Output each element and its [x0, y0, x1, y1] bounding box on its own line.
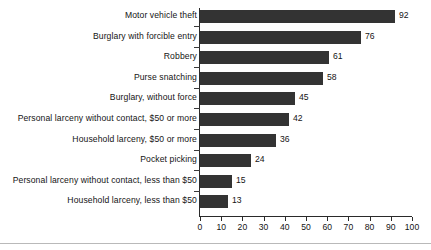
bar-value-label: 13 [232, 194, 242, 207]
value-axis-tick-label: 50 [301, 222, 311, 233]
value-axis-tick [327, 217, 328, 221]
bar-value-label: 36 [280, 133, 290, 146]
chart-row: Burglary, without force 45 [0, 92, 431, 105]
bar [200, 72, 323, 85]
chart-row: Pocket picking 24 [0, 154, 431, 167]
bar [200, 113, 289, 126]
value-axis-tick-label: 0 [198, 222, 203, 233]
value-axis-tick-label: 80 [365, 222, 375, 233]
bar [200, 31, 361, 44]
plot-area: Motor vehicle theft 92 Burglary with for… [0, 0, 431, 250]
value-axis-tick [242, 217, 243, 221]
bar [200, 175, 232, 188]
bar [200, 51, 329, 64]
bar [200, 195, 228, 208]
bar [200, 134, 276, 147]
value-axis-tick-label: 100 [405, 222, 419, 233]
bar [200, 154, 251, 167]
category-axis-tick [194, 150, 200, 151]
chart-row: Purse snatching 58 [0, 72, 431, 85]
value-axis-tick-label: 20 [238, 222, 248, 233]
category-axis-tick [194, 129, 200, 130]
value-axis-tick-label: 10 [216, 222, 226, 233]
value-axis-tick [221, 217, 222, 221]
chart-row: Household larceny, less than $50 13 [0, 195, 431, 208]
category-axis-line [199, 8, 200, 217]
chart-row: Motor vehicle theft 92 [0, 10, 431, 23]
value-axis-tick [306, 217, 307, 221]
chart-row: Robbery 61 [0, 51, 431, 64]
category-axis-tick [194, 191, 200, 192]
bar-value-label: 76 [365, 30, 375, 43]
category-label: Burglary, without force [110, 91, 197, 104]
bar-value-label: 15 [236, 174, 246, 187]
footer-divider [0, 243, 431, 244]
bar-value-label: 92 [399, 9, 409, 22]
category-label: Pocket picking [140, 153, 197, 166]
value-axis-tick [348, 217, 349, 221]
category-label: Purse snatching [134, 71, 197, 84]
bar-value-label: 61 [333, 50, 343, 63]
value-axis-tick-label: 70 [344, 222, 354, 233]
category-axis-tick [194, 67, 200, 68]
category-label: Household larceny, $50 or more [72, 133, 197, 146]
category-label: Motor vehicle theft [125, 9, 197, 22]
chart-row: Personal larceny without contact, $50 or… [0, 113, 431, 126]
bar-value-label: 45 [299, 91, 309, 104]
category-axis-tick [194, 47, 200, 48]
value-axis-tick [391, 217, 392, 221]
value-axis-tick-label: 30 [259, 222, 269, 233]
value-axis-tick [264, 217, 265, 221]
value-axis-tick-label: 60 [322, 222, 332, 233]
category-axis-tick [194, 170, 200, 171]
bar-value-label: 42 [293, 112, 303, 125]
bar-value-label: 24 [255, 153, 265, 166]
value-axis-tick-label: 40 [280, 222, 290, 233]
value-axis-tick [370, 217, 371, 221]
category-axis-tick [194, 108, 200, 109]
value-axis-tick [285, 217, 286, 221]
chart-row: Burglary with forcible entry 76 [0, 31, 431, 44]
value-axis-tick [200, 217, 201, 221]
category-label: Burglary with forcible entry [93, 30, 197, 43]
chart-row: Household larceny, $50 or more 36 [0, 134, 431, 147]
category-axis-tick [194, 26, 200, 27]
bar-chart-figure: Motor vehicle theft 92 Burglary with for… [0, 0, 431, 250]
category-label: Personal larceny without contact, less t… [13, 174, 197, 187]
category-label: Robbery [164, 50, 197, 63]
bar [200, 92, 295, 105]
chart-row: Personal larceny without contact, less t… [0, 175, 431, 188]
value-axis-tick-label: 90 [386, 222, 396, 233]
category-label: Personal larceny without contact, $50 or… [18, 112, 197, 125]
value-axis-tick [412, 217, 413, 221]
bar-value-label: 58 [327, 71, 337, 84]
category-label: Household larceny, less than $50 [67, 194, 197, 207]
category-axis-tick [194, 88, 200, 89]
bar [200, 10, 395, 23]
